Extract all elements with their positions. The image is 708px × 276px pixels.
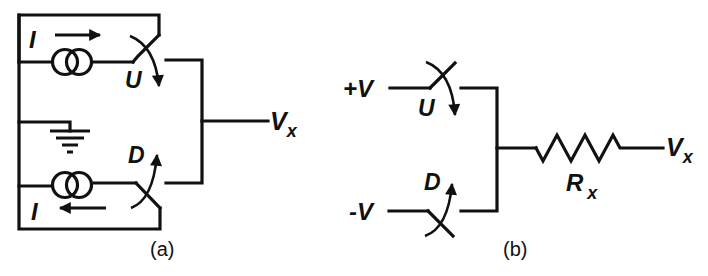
panel-a: I U Vx I D ( bbox=[19, 15, 298, 260]
resistor-icon bbox=[536, 135, 663, 161]
circuit-diagram: I U Vx I D ( bbox=[0, 0, 708, 276]
current-source-top-icon bbox=[53, 50, 92, 75]
label-switch-up: U bbox=[125, 67, 143, 93]
label-current-top: I bbox=[29, 26, 37, 53]
label-output-v: Vx bbox=[270, 107, 298, 141]
label-switch-down: D bbox=[128, 142, 145, 168]
label-neg-supply: -V bbox=[349, 198, 375, 225]
ground-icon bbox=[19, 122, 90, 152]
label-switch-down-b: D bbox=[424, 169, 441, 195]
label-output-v-b: Vx bbox=[666, 133, 694, 167]
wire-b-combiner bbox=[461, 88, 497, 211]
label-switch-up-b: U bbox=[418, 95, 436, 121]
label-pos-supply: +V bbox=[343, 75, 375, 102]
caption-b: (b) bbox=[503, 238, 527, 260]
wire-output-combiner bbox=[166, 60, 202, 183]
label-resistor: Rx bbox=[566, 169, 598, 203]
caption-a: (a) bbox=[150, 238, 174, 260]
panel-b: +V U Rx Vx -V D (b) bbox=[343, 62, 694, 260]
current-source-bottom-icon bbox=[53, 173, 92, 198]
label-current-bottom: I bbox=[31, 198, 39, 225]
